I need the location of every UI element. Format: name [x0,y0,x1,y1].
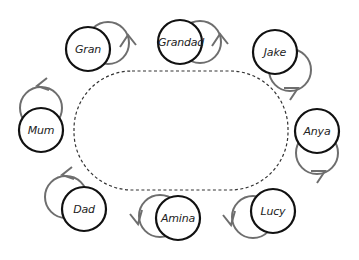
seat-label: Lucy [251,205,295,218]
table-outline [74,71,288,190]
seat-label: Mum [19,124,63,137]
seat-label: Grandad [158,36,202,49]
seat-label: Gran [66,43,110,56]
seat-label: Dad [62,203,106,216]
seat-label: Jake [253,46,297,59]
seat-label: Amina [156,212,200,225]
seat-label: Anya [295,125,339,138]
